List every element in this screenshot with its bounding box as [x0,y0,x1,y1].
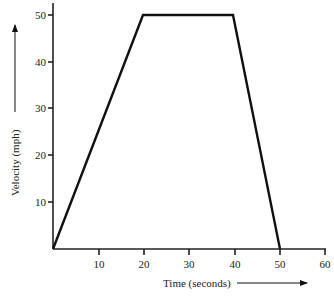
velocity-time-chart: 10 20 30 40 50 10 20 30 40 50 60 Time (s… [0,0,334,296]
y-tick-label: 50 [35,9,47,21]
y-tick-label: 40 [35,56,47,68]
x-tick-label: 10 [94,258,106,270]
y-tick-label: 20 [35,149,47,161]
x-tick-label: 20 [139,258,151,270]
x-axis-label: Time (seconds) [163,277,231,290]
y-tick-label: 10 [35,196,47,208]
x-tick-label: 60 [320,258,332,270]
y-axis-label: Velocity (mph) [9,129,22,196]
x-ticks [99,249,325,255]
x-tick-label: 30 [184,258,196,270]
velocity-line [53,15,280,249]
x-tick-label: 50 [275,258,287,270]
y-tick-labels: 10 20 30 40 50 [35,9,47,208]
y-tick-label: 30 [35,102,47,114]
x-tick-label: 40 [230,258,242,270]
x-tick-labels: 10 20 30 40 50 60 [94,258,332,270]
